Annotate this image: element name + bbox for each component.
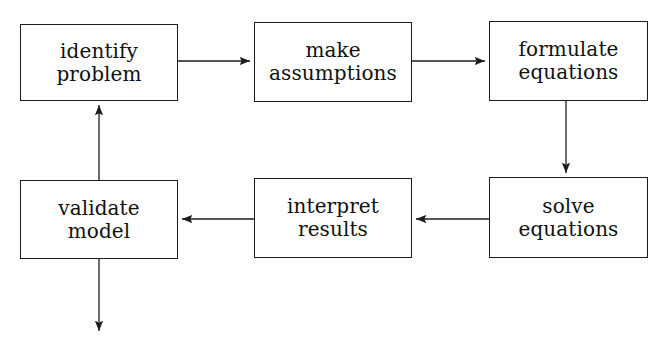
- node-formulate-equations-line2: equations: [519, 61, 619, 84]
- node-formulate-equations: formulate equations: [489, 21, 648, 101]
- node-make-assumptions-line1: make: [305, 39, 360, 62]
- node-solve-equations: solve equations: [489, 177, 648, 258]
- node-identify-problem: identify problem: [20, 24, 178, 101]
- node-validate-model: validate model: [20, 180, 178, 259]
- node-make-assumptions-line2: assumptions: [269, 62, 397, 85]
- node-interpret-results-line1: interpret: [287, 195, 379, 218]
- node-validate-model-line1: validate: [58, 197, 139, 220]
- node-solve-equations-line2: equations: [519, 218, 619, 241]
- node-solve-equations-line1: solve: [542, 195, 594, 218]
- node-interpret-results: interpret results: [254, 178, 412, 258]
- node-interpret-results-line2: results: [298, 218, 368, 241]
- node-formulate-equations-line1: formulate: [519, 38, 619, 61]
- node-identify-problem-line1: identify: [60, 40, 138, 63]
- node-identify-problem-line2: problem: [56, 63, 141, 86]
- flowchart-canvas: identify problem make assumptions formul…: [0, 0, 671, 351]
- node-validate-model-line2: model: [68, 220, 131, 243]
- node-make-assumptions: make assumptions: [254, 22, 412, 102]
